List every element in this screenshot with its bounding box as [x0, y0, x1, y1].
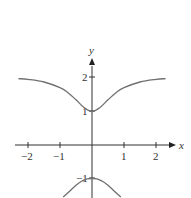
x-axis-arrow-icon	[169, 142, 176, 148]
x-axis-label: x	[178, 139, 184, 151]
x-tick-label: −1	[53, 150, 65, 162]
x-tick-label: 1	[121, 150, 127, 162]
y-axis-label: y	[88, 44, 94, 56]
x-tick-label: 2	[153, 150, 159, 162]
x-tick-label: −2	[21, 150, 33, 162]
y-axis-arrow-icon	[89, 58, 95, 65]
y-tick-label: 2	[82, 71, 88, 83]
function-graph: x y −2 −1 1 2 2 1 −1	[0, 0, 191, 198]
y-tick-label: −1	[76, 172, 88, 184]
